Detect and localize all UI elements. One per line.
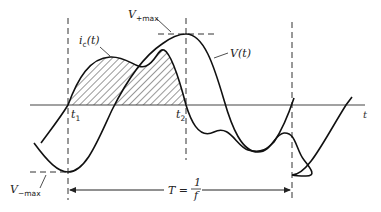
waveform-diagram: t V(t) ic(t) V+max V−max t1 t2 T = 1 f bbox=[0, 0, 381, 212]
t1-label: t1 bbox=[71, 108, 80, 123]
current-label: ic(t) bbox=[79, 34, 100, 49]
t2-label: t2 bbox=[176, 108, 185, 123]
period-lhs: T = bbox=[168, 184, 188, 197]
vmax-neg-leader bbox=[40, 175, 46, 188]
voltage-label: V(t) bbox=[230, 47, 251, 60]
current-label-leader bbox=[100, 47, 110, 56]
shaded-charge-region bbox=[68, 50, 186, 105]
vmax-neg-label: V−max bbox=[10, 183, 41, 198]
time-axis-label: t bbox=[363, 109, 368, 120]
vmax-pos-leader bbox=[157, 19, 171, 32]
vmax-pos-label: V+max bbox=[128, 8, 159, 23]
period-denominator: f bbox=[193, 189, 200, 202]
period-numerator: 1 bbox=[194, 176, 201, 189]
voltage-label-leader bbox=[214, 53, 228, 58]
